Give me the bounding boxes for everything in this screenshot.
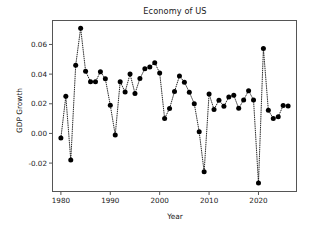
data-point: [162, 116, 167, 121]
data-point: [73, 63, 78, 68]
data-point: [261, 46, 266, 51]
data-point: [167, 106, 172, 111]
data-point: [216, 98, 221, 103]
data-point: [83, 69, 88, 74]
data-point: [271, 116, 276, 121]
x-axis-tick-label: 1990: [101, 196, 120, 205]
data-point: [113, 132, 118, 137]
y-axis-tick-label: -0.02: [28, 159, 47, 168]
series-line: [61, 28, 288, 183]
y-axis-tick-label: 0.02: [31, 99, 47, 108]
data-point: [231, 93, 236, 98]
plot-area: -0.020.000.020.040.061980199020002010202…: [0, 0, 315, 230]
data-point: [93, 79, 98, 84]
y-axis-tick-label: 0.06: [31, 40, 47, 49]
data-point: [197, 129, 202, 134]
data-point: [128, 72, 133, 77]
data-point: [182, 80, 187, 85]
data-point: [177, 74, 182, 79]
data-series-group: [58, 26, 290, 186]
x-axis-tick-label: 2010: [200, 196, 219, 205]
data-point: [108, 103, 113, 108]
x-axis-tick-label: 2020: [249, 196, 268, 205]
data-point: [98, 69, 103, 74]
data-point: [103, 76, 108, 81]
data-point: [241, 97, 246, 102]
data-point: [137, 76, 142, 81]
data-point: [192, 101, 197, 106]
data-point: [78, 26, 83, 31]
data-point: [187, 90, 192, 95]
data-point: [118, 79, 123, 84]
y-axis-tick-label: 0.04: [31, 70, 47, 79]
data-point: [88, 79, 93, 84]
data-point: [123, 89, 128, 94]
data-point: [286, 104, 291, 109]
data-point: [246, 88, 251, 93]
x-axis-tick-label: 1980: [52, 196, 71, 205]
plot-frame: [53, 21, 297, 192]
data-point: [172, 89, 177, 94]
data-point: [132, 91, 137, 96]
data-point: [157, 70, 162, 75]
data-point: [281, 103, 286, 108]
x-axis-tick-label: 2000: [151, 196, 170, 205]
chart-figure: Economy of US GDP Growth Year -0.020.000…: [0, 0, 315, 230]
data-point: [142, 66, 147, 71]
data-point: [147, 65, 152, 70]
data-point: [207, 91, 212, 96]
data-point: [256, 180, 261, 185]
data-point: [212, 107, 217, 112]
data-point: [266, 108, 271, 113]
data-point: [221, 104, 226, 109]
data-point: [236, 106, 241, 111]
data-point: [152, 60, 157, 65]
data-point: [202, 169, 207, 174]
data-point: [226, 95, 231, 100]
data-point: [251, 97, 256, 102]
data-point: [58, 135, 63, 140]
data-point: [276, 114, 281, 119]
data-point: [68, 158, 73, 163]
y-axis-tick-label: 0.00: [31, 129, 47, 138]
data-point: [63, 94, 68, 99]
